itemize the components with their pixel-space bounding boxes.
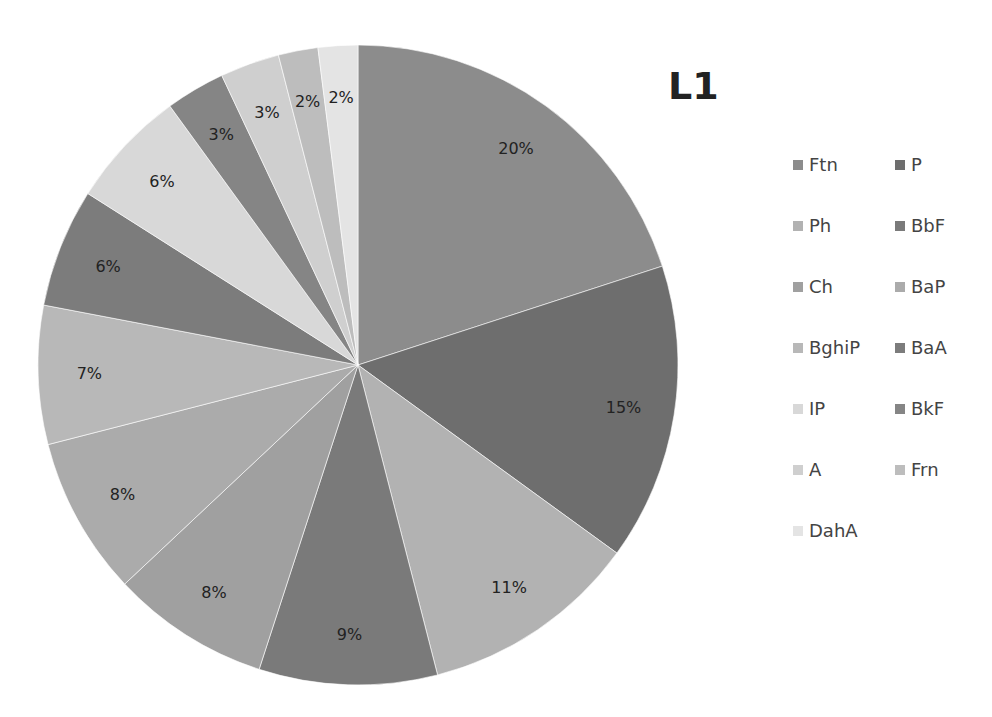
legend-swatch-icon [793,282,803,292]
legend-swatch-icon [895,282,905,292]
legend-item-ph: Ph [793,215,831,236]
data-label: 9% [337,625,362,644]
legend-swatch-icon [793,526,803,536]
data-label: 20% [498,139,534,158]
data-label: 11% [491,578,527,597]
chart-title: L1 [668,64,719,108]
data-label: 8% [201,583,226,602]
data-label: 3% [208,125,233,144]
data-label: 8% [110,485,135,504]
legend-label: BkF [911,398,944,419]
legend-label: A [809,459,821,480]
legend-label: BaP [911,276,945,297]
legend-label: DahA [809,520,858,541]
legend-swatch-icon [793,221,803,231]
legend-label: Ph [809,215,831,236]
legend-swatch-icon [793,160,803,170]
legend-item-daha: DahA [793,520,858,541]
legend-label: Ftn [809,154,838,175]
legend-label: Ch [809,276,833,297]
legend-label: IP [809,398,825,419]
legend-swatch-icon [895,160,905,170]
data-label: 7% [77,364,102,383]
pie-chart: 20%15%11%9%8%8%7%6%6%3%3%2%2% L1 FtnPPhB… [0,0,992,717]
legend-item-ftn: Ftn [793,154,838,175]
legend-swatch-icon [895,343,905,353]
data-label: 2% [328,88,353,107]
pie-plot-area: 20%15%11%9%8%8%7%6%6%3%3%2%2% [0,0,992,717]
data-label: 6% [149,172,174,191]
data-label: 2% [295,92,320,111]
legend-label: BaA [911,337,947,358]
data-label: 15% [606,398,642,417]
legend-label: BghiP [809,337,860,358]
legend-swatch-icon [793,404,803,414]
legend-item-ip: IP [793,398,825,419]
legend-item-baa: BaA [895,337,947,358]
legend-swatch-icon [793,343,803,353]
data-label: 6% [95,257,120,276]
legend-swatch-icon [895,465,905,475]
legend-item-bkf: BkF [895,398,944,419]
legend-item-p: P [895,154,922,175]
legend-label: BbF [911,215,945,236]
legend-swatch-icon [895,404,905,414]
legend-item-ch: Ch [793,276,833,297]
legend-label: P [911,154,922,175]
legend-swatch-icon [793,465,803,475]
data-label: 3% [254,103,279,122]
legend-item-frn: Frn [895,459,939,480]
legend-item-bbf: BbF [895,215,945,236]
legend-item-bap: BaP [895,276,945,297]
legend-label: Frn [911,459,939,480]
legend-swatch-icon [895,221,905,231]
legend-item-a: A [793,459,821,480]
legend-item-bghip: BghiP [793,337,860,358]
